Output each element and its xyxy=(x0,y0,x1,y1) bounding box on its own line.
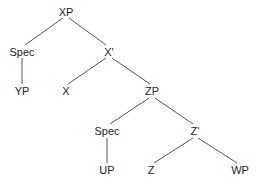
edge-xbar-x xyxy=(68,58,106,84)
node-up: UP xyxy=(99,165,114,176)
edge-xp-spec xyxy=(25,18,63,45)
node-x: X xyxy=(62,86,69,97)
node-spec-lower: Spec xyxy=(94,126,119,137)
node-xbar: X' xyxy=(104,47,113,58)
edge-xp-xbar xyxy=(69,18,106,45)
edge-zp-spec xyxy=(110,98,149,124)
tree-edges xyxy=(0,0,257,183)
edge-xbar-zp xyxy=(112,58,150,84)
edge-zbar-z xyxy=(154,138,193,163)
node-xp: XP xyxy=(59,7,74,18)
node-z: Z xyxy=(148,165,155,176)
edge-zbar-wp xyxy=(198,138,237,163)
node-zbar: Z' xyxy=(191,126,200,137)
node-spec: Spec xyxy=(9,47,34,58)
node-zp: ZP xyxy=(145,86,159,97)
node-wp: WP xyxy=(231,165,249,176)
edge-zp-zbar xyxy=(155,98,193,124)
node-yp: YP xyxy=(15,86,30,97)
